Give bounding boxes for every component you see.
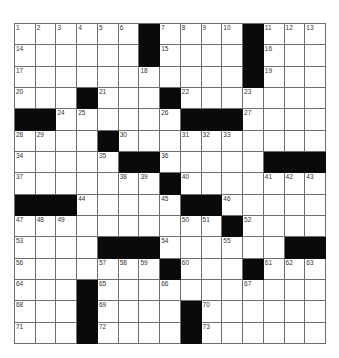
- crossword-cell[interactable]: [243, 323, 264, 344]
- crossword-cell[interactable]: 51: [202, 216, 223, 237]
- crossword-cell[interactable]: [243, 195, 264, 216]
- crossword-cell[interactable]: [160, 323, 181, 344]
- crossword-cell[interactable]: 17: [15, 67, 36, 88]
- crossword-cell[interactable]: 50: [181, 216, 202, 237]
- crossword-cell[interactable]: [243, 152, 264, 173]
- crossword-cell[interactable]: [285, 301, 306, 322]
- crossword-cell[interactable]: 44: [77, 195, 98, 216]
- crossword-cell[interactable]: 52: [243, 216, 264, 237]
- crossword-cell[interactable]: [222, 173, 243, 194]
- crossword-cell[interactable]: 15: [160, 45, 181, 66]
- crossword-cell[interactable]: [160, 301, 181, 322]
- crossword-cell[interactable]: 6: [119, 24, 140, 45]
- crossword-cell[interactable]: [305, 45, 326, 66]
- crossword-cell[interactable]: [222, 301, 243, 322]
- crossword-cell[interactable]: [98, 109, 119, 130]
- crossword-cell[interactable]: 71: [15, 323, 36, 344]
- crossword-cell[interactable]: [285, 109, 306, 130]
- crossword-cell[interactable]: [222, 280, 243, 301]
- crossword-cell[interactable]: [77, 173, 98, 194]
- crossword-cell[interactable]: 55: [222, 237, 243, 258]
- crossword-cell[interactable]: [98, 45, 119, 66]
- crossword-cell[interactable]: [243, 301, 264, 322]
- crossword-cell[interactable]: [305, 67, 326, 88]
- crossword-cell[interactable]: [160, 216, 181, 237]
- crossword-cell[interactable]: [181, 45, 202, 66]
- crossword-cell[interactable]: 29: [36, 131, 57, 152]
- crossword-cell[interactable]: [139, 88, 160, 109]
- crossword-cell[interactable]: [305, 131, 326, 152]
- crossword-cell[interactable]: 59: [139, 259, 160, 280]
- crossword-cell[interactable]: 31: [181, 131, 202, 152]
- crossword-cell[interactable]: [285, 45, 306, 66]
- crossword-cell[interactable]: 32: [202, 131, 223, 152]
- crossword-cell[interactable]: [243, 131, 264, 152]
- crossword-cell[interactable]: 47: [15, 216, 36, 237]
- crossword-cell[interactable]: [36, 323, 57, 344]
- crossword-cell[interactable]: [202, 152, 223, 173]
- crossword-cell[interactable]: [98, 67, 119, 88]
- crossword-cell[interactable]: 60: [181, 259, 202, 280]
- crossword-cell[interactable]: 26: [160, 109, 181, 130]
- crossword-cell[interactable]: 22: [181, 88, 202, 109]
- crossword-cell[interactable]: [264, 237, 285, 258]
- crossword-cell[interactable]: 58: [119, 259, 140, 280]
- crossword-cell[interactable]: 30: [119, 131, 140, 152]
- crossword-cell[interactable]: 36: [160, 152, 181, 173]
- crossword-cell[interactable]: 46: [222, 195, 243, 216]
- crossword-cell[interactable]: 66: [160, 280, 181, 301]
- crossword-cell[interactable]: [56, 237, 77, 258]
- crossword-cell[interactable]: 38: [119, 173, 140, 194]
- crossword-cell[interactable]: 65: [98, 280, 119, 301]
- crossword-cell[interactable]: [119, 195, 140, 216]
- crossword-cell[interactable]: 63: [305, 259, 326, 280]
- crossword-cell[interactable]: [36, 152, 57, 173]
- crossword-cell[interactable]: 3: [56, 24, 77, 45]
- crossword-cell[interactable]: [202, 259, 223, 280]
- crossword-cell[interactable]: 56: [15, 259, 36, 280]
- crossword-cell[interactable]: [202, 88, 223, 109]
- crossword-cell[interactable]: [77, 216, 98, 237]
- crossword-cell[interactable]: [36, 67, 57, 88]
- crossword-cell[interactable]: [181, 237, 202, 258]
- crossword-cell[interactable]: [222, 67, 243, 88]
- crossword-cell[interactable]: [264, 109, 285, 130]
- crossword-cell[interactable]: [202, 67, 223, 88]
- crossword-cell[interactable]: [285, 195, 306, 216]
- crossword-cell[interactable]: 39: [139, 173, 160, 194]
- crossword-cell[interactable]: [36, 301, 57, 322]
- crossword-cell[interactable]: [36, 259, 57, 280]
- crossword-cell[interactable]: 18: [139, 67, 160, 88]
- crossword-cell[interactable]: [56, 152, 77, 173]
- crossword-cell[interactable]: [305, 280, 326, 301]
- crossword-cell[interactable]: [202, 237, 223, 258]
- crossword-cell[interactable]: [77, 152, 98, 173]
- crossword-cell[interactable]: 42: [285, 173, 306, 194]
- crossword-cell[interactable]: 43: [305, 173, 326, 194]
- crossword-cell[interactable]: [77, 45, 98, 66]
- crossword-cell[interactable]: 67: [243, 280, 264, 301]
- crossword-cell[interactable]: [119, 109, 140, 130]
- crossword-cell[interactable]: [222, 259, 243, 280]
- crossword-cell[interactable]: [264, 216, 285, 237]
- crossword-cell[interactable]: [305, 109, 326, 130]
- crossword-cell[interactable]: [264, 195, 285, 216]
- crossword-cell[interactable]: [139, 323, 160, 344]
- crossword-cell[interactable]: [264, 301, 285, 322]
- crossword-cell[interactable]: 53: [15, 237, 36, 258]
- crossword-cell[interactable]: [56, 45, 77, 66]
- crossword-cell[interactable]: [98, 173, 119, 194]
- crossword-cell[interactable]: 16: [264, 45, 285, 66]
- crossword-cell[interactable]: 41: [264, 173, 285, 194]
- crossword-cell[interactable]: [56, 280, 77, 301]
- crossword-cell[interactable]: [160, 131, 181, 152]
- crossword-cell[interactable]: [36, 280, 57, 301]
- crossword-cell[interactable]: [264, 88, 285, 109]
- crossword-cell[interactable]: [181, 67, 202, 88]
- crossword-cell[interactable]: 10: [222, 24, 243, 45]
- crossword-cell[interactable]: 1: [15, 24, 36, 45]
- crossword-cell[interactable]: [160, 67, 181, 88]
- crossword-cell[interactable]: 35: [98, 152, 119, 173]
- crossword-cell[interactable]: 45: [160, 195, 181, 216]
- crossword-cell[interactable]: [305, 323, 326, 344]
